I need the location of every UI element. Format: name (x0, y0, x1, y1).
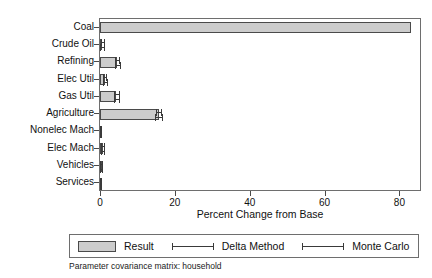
bar-agriculture (100, 109, 159, 120)
x-tick-label-20: 20 (169, 197, 180, 208)
legend-label: Monte Carlo (352, 240, 409, 252)
bar-row (100, 57, 420, 68)
plot-area (99, 18, 421, 191)
error-bar-cap (100, 166, 101, 173)
x-tick (399, 191, 400, 196)
y-tick-label-nonelec-mach: Nonelec Mach (30, 125, 94, 135)
bar-row (100, 74, 420, 85)
legend-error-bar-icon (302, 242, 344, 251)
bar-row (100, 143, 420, 154)
x-tick-label-60: 60 (319, 197, 330, 208)
y-tick-label-vehicles: Vehicles (57, 160, 94, 170)
x-tick (325, 191, 326, 196)
legend-entry-delta-method: Delta Method (172, 240, 284, 252)
error-bar-cap (103, 79, 104, 86)
bars-layer (100, 19, 420, 190)
chart-legend: ResultDelta MethodMonte Carlo (69, 234, 419, 258)
y-tick-label-refining: Refining (57, 56, 94, 66)
x-tick-label-40: 40 (244, 197, 255, 208)
error-bar-cap (101, 131, 102, 138)
bar-row (100, 109, 420, 120)
error-bar-cap (115, 62, 116, 69)
bar-row (100, 178, 420, 189)
y-tick-label-services: Services (56, 177, 94, 187)
error-bar-cap (100, 44, 101, 51)
y-tick-label-elec-util: Elec Util (57, 74, 94, 84)
legend-entry-monte-carlo: Monte Carlo (302, 240, 409, 252)
x-tick-label-80: 80 (394, 197, 405, 208)
error-bar-cap (101, 183, 102, 190)
bar-row (100, 161, 420, 172)
error-bar-cap (114, 96, 115, 103)
legend-entry-result: Result (78, 240, 154, 252)
y-tick-label-crude-oil: Crude Oil (52, 39, 94, 49)
x-tick (250, 191, 251, 196)
x-axis-title: Percent Change from Base (99, 208, 421, 220)
x-tick (100, 191, 101, 196)
error-bar-cap (104, 44, 105, 51)
error-bar-cap (104, 148, 105, 155)
error-bar-cap (162, 114, 163, 121)
error-bar-cap (101, 148, 102, 155)
chart-caption: Parameter covariance matrix: household (69, 261, 222, 271)
legend-error-bar-icon (172, 242, 214, 251)
chart-figure: CoalCrude OilRefiningElec UtilGas UtilAg… (0, 0, 432, 278)
legend-label: Delta Method (222, 240, 284, 252)
bar-coal (100, 22, 411, 33)
bar-row (100, 126, 420, 137)
bar-row (100, 91, 420, 102)
error-bar-cap (107, 79, 108, 86)
y-tick-label-elec-mach: Elec Mach (47, 143, 94, 153)
legend-label: Result (124, 240, 154, 252)
x-tick (175, 191, 176, 196)
y-axis: CoalCrude OilRefiningElec UtilGas UtilAg… (0, 18, 94, 191)
error-bar-cap (102, 166, 103, 173)
y-tick-label-agriculture: Agriculture (46, 108, 94, 118)
legend-entries: ResultDelta MethodMonte Carlo (70, 235, 418, 257)
bar-row (100, 22, 420, 33)
error-bar-cap (120, 62, 121, 69)
error-bar-cap (155, 114, 156, 121)
bar-row (100, 39, 420, 50)
legend-swatch-icon (78, 241, 116, 252)
y-tick-label-gas-util: Gas Util (58, 91, 94, 101)
x-tick-label-0: 0 (97, 197, 103, 208)
y-tick-label-coal: Coal (73, 22, 94, 32)
error-bar-monte-carlo (155, 117, 162, 118)
error-bar-cap (119, 96, 120, 103)
